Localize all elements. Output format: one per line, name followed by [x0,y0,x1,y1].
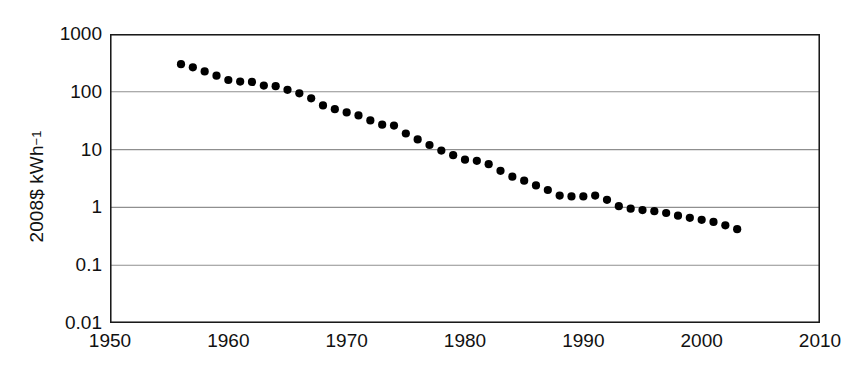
data-point [295,89,303,97]
data-point [402,129,410,137]
data-point [733,225,741,233]
data-point [414,135,422,143]
x-axis-tick-label: 2000 [681,330,723,352]
data-point [212,72,220,80]
data-point [627,205,635,213]
data-point [496,167,504,175]
data-point [319,101,327,109]
x-axis-tick-label: 1980 [444,330,486,352]
data-point [461,156,469,164]
data-point [236,78,244,86]
data-point [343,108,351,116]
data-point [378,121,386,129]
data-point [650,207,658,215]
data-point [177,60,185,68]
x-axis-tick-label: 2010 [799,330,841,352]
data-point [662,209,670,217]
x-axis-tick-label: 1960 [207,330,249,352]
data-point [283,86,291,94]
plot-svg [110,34,820,323]
gridlines [110,92,820,265]
data-point [615,202,623,210]
y-axis-tick-label: 100 [40,81,102,103]
data-point [425,141,433,149]
data-point [437,147,445,155]
data-point [307,94,315,102]
data-point [189,63,197,71]
data-point [260,82,268,90]
data-point [638,206,646,214]
chart-figure: 2008$ kWh−1 10001001010.10.01 1950196019… [0,0,865,373]
data-point [390,122,398,130]
data-point [721,221,729,229]
data-point [485,160,493,168]
x-axis-tick-labels: 1950196019701980199020002010 [0,330,865,360]
data-point [686,214,694,222]
data-point [579,192,587,200]
y-axis-tick-label: 1000 [40,23,102,45]
data-point [532,181,540,189]
data-point [354,111,362,119]
x-axis-tick-label: 1970 [326,330,368,352]
data-point [556,192,564,200]
data-point [201,67,209,75]
x-axis-tick-label: 1990 [562,330,604,352]
data-point [591,192,599,200]
data-point [272,82,280,90]
data-point [567,192,575,200]
data-point [544,186,552,194]
data-point [473,157,481,165]
data-point [331,105,339,113]
data-point [698,216,706,224]
y-axis-tick-label: 0.1 [40,254,102,276]
data-point [508,173,516,181]
data-point [248,78,256,86]
y-axis-tick-label: 10 [40,139,102,161]
data-point [366,116,374,124]
plot-area [110,34,820,323]
data-point [603,196,611,204]
y-axis-tick-label: 1 [40,196,102,218]
data-point [224,76,232,84]
y-axis-tick-labels: 10001001010.10.01 [40,0,102,373]
data-point [520,177,528,185]
data-point [674,212,682,220]
x-axis-tick-label: 1950 [89,330,131,352]
data-point [709,218,717,226]
data-point [449,151,457,159]
